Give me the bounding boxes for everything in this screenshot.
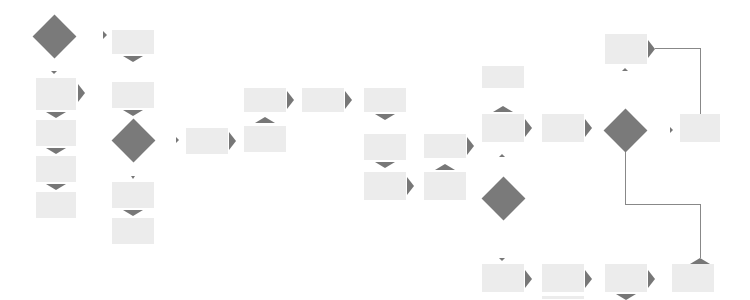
box-identify-thresholds — [364, 88, 406, 112]
box-alert-members — [36, 78, 76, 110]
arrow-down-icon — [123, 56, 143, 62]
box-contact-vendor — [36, 120, 76, 146]
box-enter-breaks — [482, 264, 524, 292]
decision-adjustment — [481, 176, 525, 220]
decision-loaded-correctly — [111, 118, 155, 162]
arrow-down-icon — [131, 176, 135, 179]
arrow-right-icon — [345, 91, 352, 109]
box-make-adjustments — [482, 66, 524, 88]
box-add-comments — [424, 172, 466, 200]
arrow-down-icon — [51, 71, 57, 74]
arrow-right-icon — [78, 84, 85, 102]
arrow-up-icon — [255, 117, 275, 123]
arrow-right-icon — [670, 127, 673, 133]
box-new-calc — [482, 114, 524, 142]
arrow-right-icon — [525, 270, 532, 288]
arrow-down-icon — [46, 148, 66, 154]
connector-line — [655, 48, 701, 49]
arrow-down-icon — [616, 294, 636, 300]
arrow-down-icon — [123, 110, 143, 116]
arrow-right-icon — [525, 119, 532, 137]
box-run-services — [244, 88, 286, 112]
box-flag-exceptions — [364, 134, 406, 160]
arrow-right-icon — [648, 270, 655, 288]
arrow-right-icon — [176, 137, 179, 143]
arrow-right-icon — [407, 177, 414, 195]
arrow-right-icon — [585, 119, 592, 137]
box-stay-blanket — [36, 192, 76, 218]
arrow-down-icon — [123, 210, 143, 216]
box-contact — [112, 182, 154, 208]
arrow-right-icon — [103, 31, 107, 39]
box-load-template — [542, 264, 584, 292]
box-distribute — [186, 128, 228, 154]
box-run-cases — [424, 134, 466, 158]
arrow-down-icon — [46, 112, 66, 118]
decision-sign-off — [603, 108, 647, 152]
arrow-up-icon — [499, 154, 505, 157]
arrow-up-icon — [622, 68, 628, 71]
arrow-down-icon — [46, 184, 66, 190]
connector-line — [625, 204, 701, 205]
connector-line — [700, 48, 701, 114]
arrow-up-icon — [493, 106, 513, 112]
arrow-right-icon — [585, 270, 592, 288]
connector-line — [700, 204, 701, 258]
arrow-right-icon — [287, 91, 294, 109]
box-open-ticket — [112, 218, 154, 244]
connector-line — [625, 152, 626, 204]
arrow-right-icon — [467, 137, 474, 155]
box-send-email — [36, 156, 76, 182]
box-email-members — [680, 114, 720, 142]
arrow-down-icon — [499, 258, 505, 261]
box-document — [542, 114, 584, 142]
arrow-right-icon — [229, 132, 236, 150]
box-extract-file — [244, 126, 286, 152]
box-check-run-time — [112, 30, 154, 54]
box-output-sheets — [605, 264, 647, 292]
arrow-down-icon — [375, 162, 395, 168]
arrow-up-icon — [435, 164, 455, 170]
decision-market-conditions — [32, 14, 76, 58]
box-email-exceptions — [364, 172, 406, 200]
box-apply-thresholds — [302, 88, 344, 112]
arrow-down-icon — [375, 114, 395, 120]
arrow-right-icon — [648, 40, 655, 58]
box-manager-review — [605, 34, 647, 64]
box-create-summary — [672, 264, 714, 292]
box-pricing-file — [112, 82, 154, 108]
box-report — [542, 296, 584, 299]
